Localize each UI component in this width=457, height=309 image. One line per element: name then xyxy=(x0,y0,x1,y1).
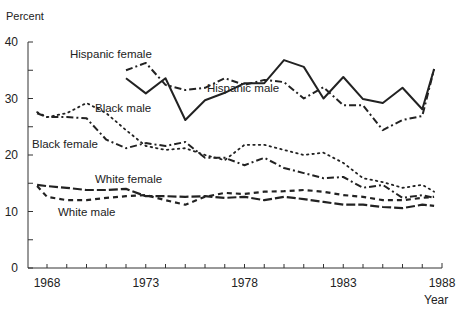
y-tick-label: 10 xyxy=(5,205,19,219)
label-white-female: White female xyxy=(95,173,162,185)
series-hispanic-female xyxy=(126,63,434,130)
x-tick-label: 1968 xyxy=(34,276,61,290)
x-axis-title: Year xyxy=(424,293,448,307)
y-tick-label: 30 xyxy=(5,92,19,106)
series-white-female xyxy=(37,185,434,208)
label-black-male: Black male xyxy=(95,102,151,114)
series-white-male xyxy=(37,186,434,205)
x-tick-label: 1978 xyxy=(231,276,258,290)
x-tick-label: 1983 xyxy=(330,276,357,290)
label-black-female: Black female xyxy=(32,138,98,150)
y-tick-label: 0 xyxy=(11,261,18,275)
label-hispanic-male: Hispanic male xyxy=(207,82,279,94)
line-chart: Percent Year 010203040196819731978198319… xyxy=(0,0,457,309)
x-tick-label: 1988 xyxy=(429,276,456,290)
label-white-male: White male xyxy=(58,206,116,218)
y-tick-label: 20 xyxy=(5,148,19,162)
x-tick-label: 1973 xyxy=(132,276,159,290)
series-hispanic-male xyxy=(126,60,434,120)
y-tick-label: 40 xyxy=(5,35,19,49)
y-axis-title: Percent xyxy=(6,10,44,22)
axes: 01020304019681973197819831988 xyxy=(5,35,456,290)
series-black-female xyxy=(37,113,434,198)
label-hispanic-female: Hispanic female xyxy=(70,48,152,60)
